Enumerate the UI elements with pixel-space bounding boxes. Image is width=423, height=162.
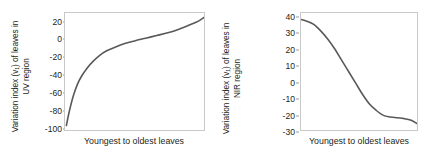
y-tick-label: -20 — [50, 52, 62, 62]
y-tick-label: 20 — [52, 17, 62, 27]
y-tick-mark — [296, 116, 299, 117]
y-tick-mark — [296, 17, 299, 18]
y-tick-label: -60 — [50, 88, 62, 98]
chart-panel-uv: Variation index (v₁) of leaves in UV reg… — [0, 0, 213, 162]
chart-panel-nir: Variation index (v₁) of leaves in NIR re… — [213, 0, 423, 162]
y-tick-label: 10 — [285, 61, 295, 71]
x-axis-label-uv: Youngest to oldest leaves — [56, 136, 212, 146]
y-tick-mark — [296, 99, 299, 100]
y-tick-label: -40 — [50, 70, 62, 80]
y-tick-label: -100 — [45, 124, 62, 134]
data-curve-nir — [301, 20, 417, 124]
y-tick-label: 0 — [290, 78, 295, 88]
plot-area-nir — [300, 12, 418, 131]
y-tick-label: -80 — [50, 106, 62, 116]
y-tick-mark — [296, 33, 299, 34]
y-axis-label-uv: Variation index (v₁) of leaves in UV reg… — [10, 21, 31, 133]
y-tick-mark — [296, 66, 299, 67]
y-tick-label: 30 — [285, 28, 295, 38]
curve-plot-uv — [65, 13, 204, 130]
y-tick-mark — [296, 132, 299, 133]
figure-container: Variation index (v₁) of leaves in UV reg… — [0, 0, 423, 162]
y-tick-label: 20 — [285, 45, 295, 55]
x-axis-label-nir: Youngest to oldest leaves — [287, 136, 423, 146]
y-tick-label: 0 — [57, 34, 62, 44]
y-tick-label: -10 — [283, 94, 295, 104]
y-tick-label: 40 — [285, 12, 295, 22]
data-curve-uv — [66, 18, 204, 126]
curve-plot-nir — [301, 13, 417, 130]
y-tick-mark — [296, 50, 299, 51]
plot-area-uv — [64, 12, 205, 131]
y-tick-mark — [296, 83, 299, 84]
y-axis-label-nir: Variation index (v₁) of leaves in NIR re… — [221, 21, 242, 137]
y-tick-label: -20 — [283, 111, 295, 121]
